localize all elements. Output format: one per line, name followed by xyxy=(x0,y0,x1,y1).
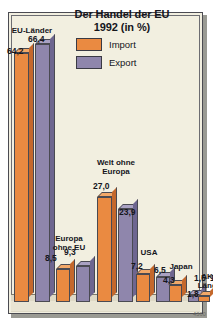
figure-code: 4360 xyxy=(193,311,206,317)
bar-front-face xyxy=(198,296,210,302)
chart-figure: Der Handel der EU 1992 (in %) Import Exp… xyxy=(0,0,213,321)
bar-export-2 xyxy=(76,266,90,302)
category-label-line: Europa xyxy=(47,234,91,243)
category-label-3: Welt ohneEuropa xyxy=(89,158,143,176)
bar-import-6 xyxy=(198,296,210,302)
bar-import-1 xyxy=(14,53,29,302)
bar-side-face xyxy=(70,259,75,297)
bar-front-face xyxy=(35,44,50,302)
bar-side-face xyxy=(29,43,34,297)
category-label-5: Japan xyxy=(161,262,201,271)
category-label-line: Welt ohne xyxy=(89,158,143,167)
bar-side-face xyxy=(90,256,95,297)
bar-front-face xyxy=(76,266,90,302)
value-label-import-6: 1,5 xyxy=(194,274,206,283)
bar-front-face xyxy=(56,269,70,302)
category-label-line: Europa xyxy=(89,167,143,176)
value-label-export-3: 23,9 xyxy=(119,208,136,217)
bar-front-face xyxy=(14,53,29,302)
category-label-line: Japan xyxy=(161,262,201,271)
bar-front-face xyxy=(97,197,112,302)
value-label-export-6: 1,5 xyxy=(210,274,213,283)
value-label-import-5: 4,3 xyxy=(163,276,175,285)
bar-front-face xyxy=(136,274,150,302)
bar-export-1 xyxy=(35,44,50,302)
value-label-export-1: 66,4 xyxy=(28,35,45,44)
bar-import-4 xyxy=(136,274,150,302)
chart-title-line1: Der Handel der EU xyxy=(75,8,170,20)
value-label-export-2: 9,3 xyxy=(64,248,76,257)
category-label-4: USA xyxy=(129,248,169,257)
value-label-import-2: 8,5 xyxy=(45,254,57,263)
value-label-import-4: 7,2 xyxy=(131,262,143,271)
bar-front-face xyxy=(169,285,182,302)
plot-floor-front xyxy=(11,301,200,311)
plot-area: EU-Länder64,266,4Europaohne EU8,59,3Welt… xyxy=(11,22,200,302)
bar-import-3 xyxy=(97,197,112,302)
bar-side-face xyxy=(112,187,117,297)
bar-import-5 xyxy=(169,285,182,302)
value-label-import-3: 27,0 xyxy=(93,182,110,191)
category-label-line: USA xyxy=(129,248,169,257)
value-label-import-1: 64,2 xyxy=(7,47,24,56)
bar-import-2 xyxy=(56,269,70,302)
